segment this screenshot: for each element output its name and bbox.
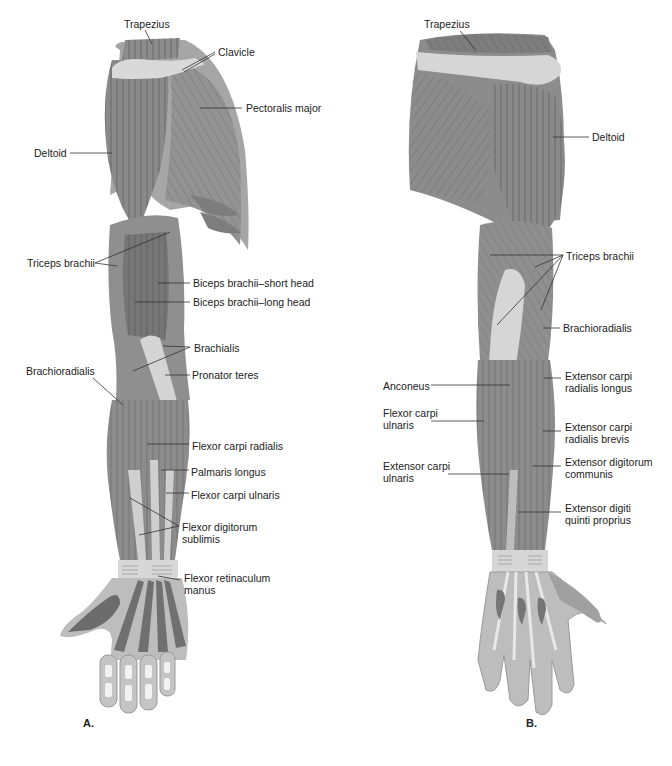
label-extensor-carpi-radialis-brevis: Extensor carpi radialis brevis (565, 421, 632, 445)
label-brachioradialis-a: Brachioradialis (26, 365, 95, 377)
label-trapezius-b: Trapezius (424, 18, 470, 30)
label-brachioradialis-b: Brachioradialis (563, 322, 632, 334)
label-extensor-carpi-radialis-longus: Extensor carpi radialis longus (565, 370, 632, 394)
label-trapezius-a: Trapezius (124, 18, 170, 30)
label-flexor-carpi-ulnaris-a: Flexor carpi ulnaris (191, 489, 280, 501)
label-deltoid-b: Deltoid (592, 131, 625, 143)
label-triceps-brachii-a: Triceps brachii (27, 257, 95, 269)
label-triceps-brachii-b: Triceps brachii (566, 250, 634, 262)
anatomy-figure: Trapezius Clavicle Pectoralis major Delt… (0, 0, 672, 766)
label-pectoralis-major: Pectoralis major (246, 102, 321, 114)
label-brachialis: Brachialis (194, 342, 240, 354)
label-anconeus: Anconeus (383, 380, 430, 392)
label-flexor-retinaculum-manus: Flexor retinaculum manus (184, 572, 270, 596)
label-flexor-digitorum-sublimis: Flexor digitorum sublimis (182, 521, 257, 545)
panel-letter-b: B. (526, 717, 537, 729)
label-flexor-carpi-ulnaris-b: Flexor carpi ulnaris (383, 407, 438, 431)
label-pronator-teres: Pronator teres (192, 369, 259, 381)
label-flexor-carpi-radialis: Flexor carpi radialis (192, 440, 283, 452)
label-biceps-short-head: Biceps brachii–short head (193, 277, 314, 289)
label-palmaris-longus: Palmaris longus (191, 466, 266, 478)
label-clavicle: Clavicle (218, 46, 255, 58)
label-extensor-digiti-quinti-proprius: Extensor digiti quinti proprius (565, 502, 631, 526)
label-biceps-long-head: Biceps brachii–long head (193, 296, 310, 308)
panel-letter-a: A. (83, 717, 94, 729)
label-extensor-digitorum-communis: Extensor digitorum communis (565, 456, 653, 480)
label-deltoid-a: Deltoid (34, 147, 67, 159)
label-extensor-carpi-ulnaris: Extensor carpi ulnaris (383, 460, 450, 484)
